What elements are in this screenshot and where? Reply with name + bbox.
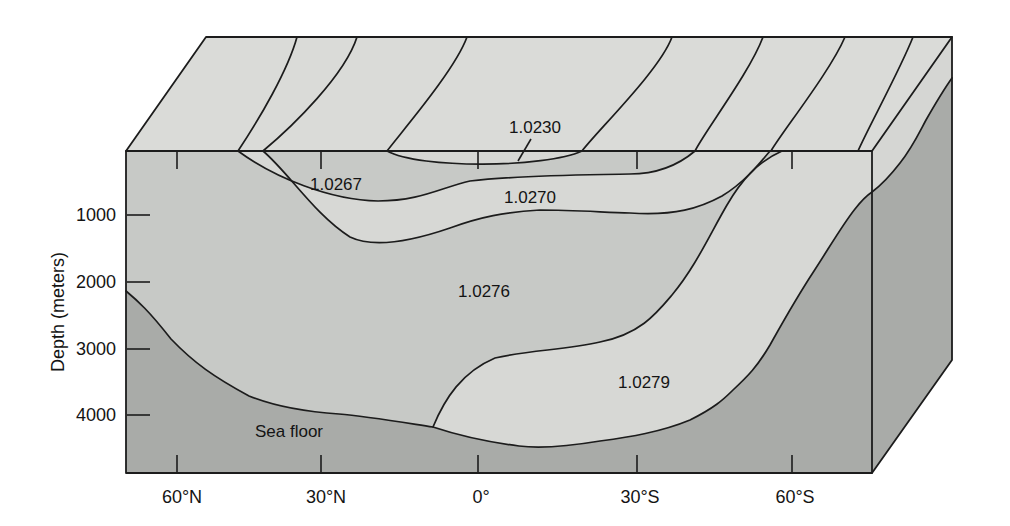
lat-label-30s: 30°S: [620, 487, 659, 507]
density-cross-section-figure: 1000 2000 3000 4000 Depth (meters) 60°N …: [0, 0, 1010, 526]
lat-label-0: 0°: [472, 487, 489, 507]
label-density-1-0276: 1.0276: [458, 282, 510, 301]
diagram-canvas: 1000 2000 3000 4000 Depth (meters) 60°N …: [0, 0, 1010, 526]
depth-tick-label-3000: 3000: [76, 339, 116, 359]
label-density-1-0267: 1.0267: [310, 175, 362, 194]
depth-axis: 1000 2000 3000 4000 Depth (meters): [48, 205, 116, 425]
lat-label-30n: 30°N: [306, 487, 346, 507]
label-density-1-0270: 1.0270: [504, 188, 556, 207]
depth-tick-label-2000: 2000: [76, 272, 116, 292]
label-density-1-0279: 1.0279: [618, 373, 670, 392]
label-density-1-0230: 1.0230: [509, 118, 561, 137]
depth-tick-label-1000: 1000: [76, 205, 116, 225]
depth-axis-title: Depth (meters): [48, 252, 68, 372]
sea-floor-label: Sea floor: [255, 422, 323, 441]
depth-tick-label-4000: 4000: [76, 405, 116, 425]
lat-label-60n: 60°N: [162, 487, 202, 507]
latitude-axis: 60°N 30°N 0° 30°S 60°S: [162, 487, 815, 507]
lat-label-60s: 60°S: [775, 487, 814, 507]
